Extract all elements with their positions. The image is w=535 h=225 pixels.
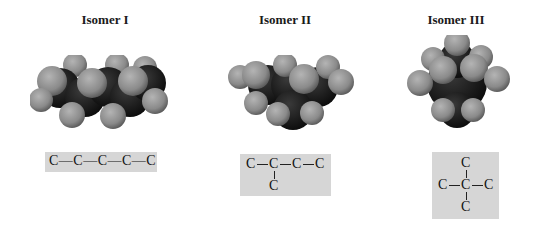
bond [472,185,483,186]
bond [449,185,460,186]
isomer-3-space-filling-model [405,35,525,135]
isomer-1-title: Isomer I [35,12,175,28]
isomer-2-atom-c2: C [269,157,278,171]
isomer-3-atom-center: C [461,178,470,192]
bond [280,164,291,165]
isomer-2-atom-c3: C [292,157,301,171]
bond [257,164,268,165]
isomer-3-atom-bottom: C [461,200,470,214]
isomer-2-atom-c5: C [269,179,278,193]
isomer-2-atom-c1: C [246,157,255,171]
isomer-2-atom-c4: C [315,157,324,171]
isomer-2-formula-box: C C C C C [240,154,331,196]
isomer-3-atom-left: C [438,178,447,192]
isomer-1-space-filling-model [30,55,180,135]
isomer-3-atom-right: C [484,178,493,192]
isomer-3-title: Isomer III [386,12,526,28]
isomer-3-formula-box: C C C C C [432,152,499,219]
isomer-3-atom-top: C [461,156,470,170]
bond [303,164,314,165]
isomer-2-space-filling-model [228,55,363,135]
isomer-1-formula-box: C—C—C—C—C [45,152,157,172]
isomer-2-title: Isomer II [215,12,355,28]
isomer-1-formula: C—C—C—C—C [49,153,156,169]
